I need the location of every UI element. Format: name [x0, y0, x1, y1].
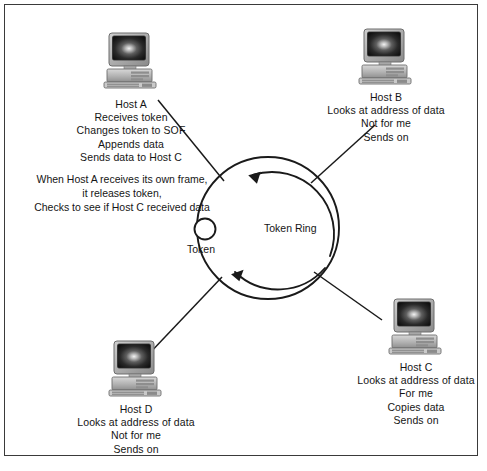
host-b-computer-icon — [355, 26, 417, 88]
note-line-1: it releases token, — [22, 186, 222, 200]
host-c-line-2: For me — [346, 387, 486, 400]
host-b-line-2: Not for me — [316, 117, 456, 130]
host-a-frame-note: When Host A receives its own frame, it r… — [22, 172, 222, 214]
host-a-line-1: Receives token — [56, 111, 206, 124]
host-c-line-1: Looks at address of data — [346, 374, 486, 387]
host-a-line-3: Appends data — [56, 138, 206, 151]
host-a-line-2: Changes token to SOF — [56, 124, 206, 137]
token-ring-diagram: Host A Receives token Changes token to S… — [0, 0, 487, 471]
ring-flow-arrowhead-lower — [230, 268, 243, 281]
note-line-2: Checks to see if Host C received data — [22, 200, 222, 214]
host-b-label: Host B Looks at address of data Not for … — [316, 91, 456, 144]
host-a-label: Host A Receives token Changes token to S… — [56, 98, 206, 164]
host-b-line-3: Sends on — [316, 131, 456, 144]
host-d-line-2: Not for me — [66, 429, 206, 442]
host-d-line-3: Sends on — [66, 443, 206, 456]
host-c-line-0: Host C — [346, 361, 486, 374]
host-b-line-1: Looks at address of data — [316, 104, 456, 117]
host-a-line-0: Host A — [56, 98, 206, 111]
host-d-line-0: Host D — [66, 403, 206, 416]
host-d-label: Host D Looks at address of data Not for … — [66, 403, 206, 456]
host-c-line-4: Sends on — [346, 414, 486, 427]
host-d-line-1: Looks at address of data — [66, 416, 206, 429]
host-b-line-0: Host B — [316, 91, 456, 104]
ring-flow-arc-upper — [253, 172, 334, 256]
note-line-0: When Host A receives its own frame, — [22, 172, 222, 186]
host-a-computer-icon — [100, 30, 162, 92]
host-a-line-4: Sends data to Host C — [56, 151, 206, 164]
host-c-line-3: Copies data — [346, 401, 486, 414]
host-c-computer-icon — [385, 296, 447, 358]
connector-host-c — [314, 272, 382, 320]
token-label: Token — [187, 243, 215, 255]
host-c-label: Host C Looks at address of data For me C… — [346, 361, 486, 427]
ring-flow-arc-lower — [235, 268, 325, 289]
host-d-computer-icon — [105, 338, 167, 400]
token-circle — [195, 219, 216, 240]
token-ring-label: Token Ring — [264, 222, 317, 234]
